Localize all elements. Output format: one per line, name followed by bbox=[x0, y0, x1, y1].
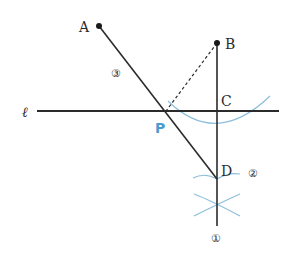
step-marker-3: ③ bbox=[111, 67, 121, 80]
step-marker-1: ① bbox=[211, 232, 221, 245]
arc-d-left bbox=[193, 175, 217, 179]
step-marker-2: ② bbox=[248, 167, 258, 180]
point-p-label: P bbox=[155, 120, 165, 136]
line-l-label: ℓ bbox=[22, 104, 28, 120]
construction-diagram: A B C D P ℓ ① ② ③ bbox=[0, 0, 294, 259]
construction-arcs bbox=[168, 96, 270, 216]
point-a-label: A bbox=[78, 19, 90, 35]
point-d-label: D bbox=[221, 163, 232, 179]
point-c-label: C bbox=[221, 93, 232, 109]
arc-c bbox=[168, 96, 270, 123]
point-a-dot bbox=[96, 23, 102, 29]
segment-ad bbox=[99, 26, 217, 179]
point-b-label: B bbox=[225, 36, 235, 52]
segment-bp-dashed bbox=[166, 43, 217, 111]
point-b-dot bbox=[214, 40, 220, 46]
